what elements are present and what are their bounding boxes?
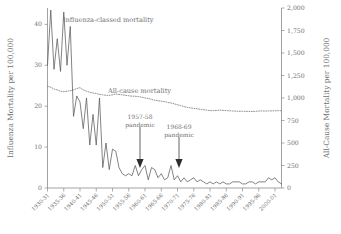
chart-container: 010203040 02505007501,0001,2501,5001,750…	[0, 0, 341, 234]
right-tick-label: 1,000	[287, 94, 305, 101]
right-tick-label: 1,750	[287, 27, 305, 34]
right-axis-title: All-Cause Mortality per 100,000	[322, 37, 331, 159]
influenza-series-label: Influenza-classed mortality	[63, 16, 154, 24]
right-tick-label: 1,500	[287, 49, 305, 56]
right-tick-label: 500	[287, 139, 299, 146]
left-tick-label: 30	[34, 61, 42, 68]
left-tick-label: 40	[34, 20, 42, 27]
annotation-1957-line1: 1957-58	[128, 113, 153, 120]
left-tick-label: 10	[34, 143, 42, 150]
right-tick-label: 2,000	[287, 4, 305, 11]
right-tick-label: 0	[287, 184, 291, 191]
all-cause-series-label: All-cause mortality	[107, 87, 171, 95]
right-tick-label: 750	[287, 117, 299, 124]
right-tick-label: 250	[287, 162, 299, 169]
right-tick-label: 1,250	[287, 72, 305, 79]
left-axis-title: Influenza Mortality per 100,000	[6, 38, 15, 158]
left-tick-label: 0	[38, 184, 42, 191]
left-tick-label: 20	[34, 102, 42, 109]
annotation-1968-line1: 1968-69	[167, 123, 192, 130]
dual-axis-line-chart: 010203040 02505007501,0001,2501,5001,750…	[0, 0, 341, 234]
